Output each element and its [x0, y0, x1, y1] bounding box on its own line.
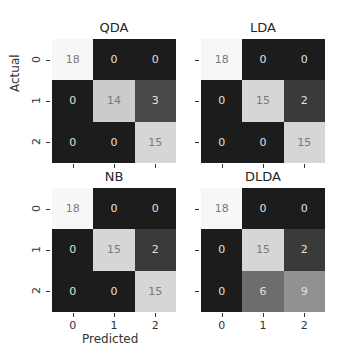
matrix-cell: 3 — [135, 80, 176, 121]
col-tick-label: 2 — [298, 319, 310, 332]
confusion-matrix: 180001520015 — [52, 188, 176, 312]
matrix-cell: 15 — [135, 271, 176, 312]
matrix-cell: 0 — [135, 39, 176, 80]
matrix-cell: 0 — [93, 188, 134, 229]
row-tick-label: 1 — [30, 95, 43, 107]
matrix-cell: 0 — [242, 122, 283, 163]
matrix-cell: 18 — [52, 39, 93, 80]
x-axis-label: Predicted — [82, 332, 138, 346]
col-tick-mark — [222, 164, 223, 168]
confusion-matrix: 18000152069 — [201, 188, 325, 312]
row-tick-mark — [195, 209, 199, 210]
matrix-cell: 0 — [201, 271, 242, 312]
matrix-cell: 2 — [284, 229, 325, 270]
row-tick-mark — [195, 250, 199, 251]
matrix-cell: 0 — [52, 229, 93, 270]
matrix-cell: 0 — [52, 122, 93, 163]
matrix-cell: 15 — [284, 122, 325, 163]
row-tick-label: 0 — [30, 202, 43, 214]
matrix-cell: 0 — [284, 188, 325, 229]
matrix-cell: 0 — [52, 80, 93, 121]
row-tick-label: 2 — [30, 285, 43, 297]
row-tick-mark — [195, 142, 199, 143]
col-tick-mark — [263, 313, 264, 317]
matrix-cell: 18 — [201, 188, 242, 229]
matrix-cell: 18 — [52, 188, 93, 229]
panel-title: LDA — [201, 20, 325, 35]
row-tick-label: 1 — [30, 244, 43, 256]
matrix-cell: 15 — [135, 122, 176, 163]
row-tick-mark — [195, 101, 199, 102]
matrix-cell: 2 — [284, 80, 325, 121]
col-tick-label: 0 — [216, 319, 228, 332]
matrix-cell: 0 — [201, 80, 242, 121]
col-tick-mark — [73, 164, 74, 168]
matrix-cell: 0 — [242, 188, 283, 229]
matrix-cell: 0 — [93, 39, 134, 80]
row-tick-mark — [46, 60, 50, 61]
col-tick-mark — [222, 313, 223, 317]
matrix-cell: 15 — [242, 80, 283, 121]
matrix-cell: 0 — [201, 122, 242, 163]
matrix-cell: 0 — [284, 39, 325, 80]
panel-title: NB — [52, 169, 176, 184]
col-tick-mark — [304, 313, 305, 317]
row-tick-label: 2 — [30, 136, 43, 148]
col-tick-mark — [155, 164, 156, 168]
matrix-cell: 0 — [93, 271, 134, 312]
matrix-cell: 0 — [93, 122, 134, 163]
col-tick-mark — [73, 313, 74, 317]
matrix-cell: 9 — [284, 271, 325, 312]
matrix-cell: 6 — [242, 271, 283, 312]
row-tick-mark — [46, 209, 50, 210]
col-tick-label: 1 — [108, 319, 120, 332]
col-tick-label: 1 — [257, 319, 269, 332]
matrix-cell: 0 — [135, 188, 176, 229]
col-tick-mark — [114, 164, 115, 168]
panel-title: DLDA — [201, 169, 325, 184]
col-tick-label: 2 — [149, 319, 161, 332]
col-tick-mark — [263, 164, 264, 168]
row-tick-mark — [195, 60, 199, 61]
row-tick-mark — [46, 250, 50, 251]
y-axis-label: Actual — [8, 54, 22, 92]
row-tick-mark — [46, 142, 50, 143]
confusion-matrix: 180001520015 — [201, 39, 325, 163]
matrix-cell: 18 — [201, 39, 242, 80]
row-tick-mark — [46, 101, 50, 102]
col-tick-mark — [114, 313, 115, 317]
matrix-cell: 14 — [93, 80, 134, 121]
confusion-matrix: 180001430015 — [52, 39, 176, 163]
row-tick-mark — [195, 291, 199, 292]
col-tick-mark — [155, 313, 156, 317]
row-tick-mark — [46, 291, 50, 292]
matrix-cell: 0 — [52, 271, 93, 312]
panel-title: QDA — [52, 20, 176, 35]
matrix-cell: 15 — [242, 229, 283, 270]
matrix-cell: 2 — [135, 229, 176, 270]
row-tick-label: 0 — [30, 53, 43, 65]
matrix-cell: 0 — [201, 229, 242, 270]
matrix-cell: 15 — [93, 229, 134, 270]
col-tick-mark — [304, 164, 305, 168]
matrix-cell: 0 — [242, 39, 283, 80]
col-tick-label: 0 — [67, 319, 79, 332]
